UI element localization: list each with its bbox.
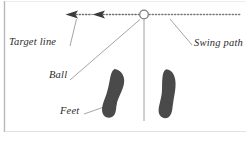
label-ball: Ball <box>49 70 67 81</box>
label-swing-path: Swing path <box>194 38 243 49</box>
label-feet: Feet <box>60 106 79 117</box>
label-target-line: Target line <box>9 37 56 48</box>
golf-stance-diagram: Target line Swing path Ball Feet <box>0 0 250 145</box>
diagram-canvas <box>0 0 250 145</box>
leader-swing-path <box>170 19 192 45</box>
foot-right-sole <box>159 69 176 118</box>
ball-circle <box>140 10 149 19</box>
leader-ball <box>70 20 140 81</box>
leader-feet <box>84 107 104 114</box>
foot-left <box>102 69 124 118</box>
leader-target-line <box>70 19 77 46</box>
foot-left-sole <box>102 69 124 118</box>
foot-right <box>159 69 176 118</box>
